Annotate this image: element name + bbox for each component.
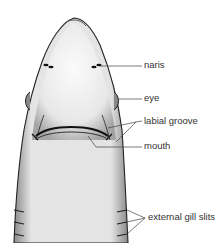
eye-left — [26, 92, 31, 110]
label-eye: eye — [144, 93, 159, 103]
label-labial-groove: labial groove — [144, 116, 198, 126]
label-external-gill-slits: external gill slits — [148, 212, 215, 222]
label-naris: naris — [144, 60, 165, 70]
label-mouth: mouth — [144, 141, 170, 151]
